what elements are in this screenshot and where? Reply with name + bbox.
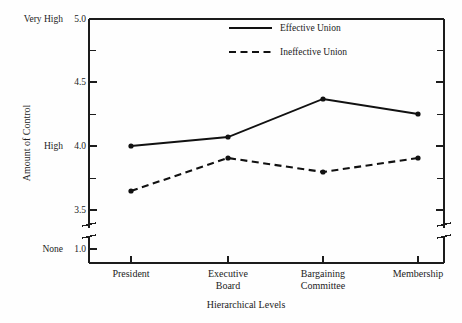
y-axis-ticks-left	[89, 50, 97, 249]
y-anchor-label-none: None	[42, 244, 63, 254]
x-axis-ticks	[131, 256, 418, 263]
data-point	[225, 155, 230, 160]
x-tick-label-president: President	[112, 268, 149, 279]
y-tick-label-5: 5.0	[74, 14, 86, 24]
data-point	[320, 169, 325, 174]
y-tick-label-4: 4.0	[74, 141, 86, 151]
data-point	[225, 134, 230, 139]
y-anchor-label-high: High	[44, 141, 63, 151]
x-tick-label-bargaining-committee-line1: Bargaining	[301, 268, 345, 279]
y-axis-tick-labels: 5.0 4.5 4.0 3.5 1.0	[74, 14, 86, 254]
chart-legend: Effective Union Ineffective Union	[229, 23, 347, 57]
x-axis-title: Hierarchical Levels	[207, 299, 286, 310]
line-chart-canvas: 5.0 4.5 4.0 3.5 1.0 Very High High None …	[0, 0, 462, 323]
y-anchor-label-very-high: Very High	[24, 14, 64, 24]
y-axis-break-icon	[82, 223, 451, 238]
y-axis-ticks-right	[436, 50, 444, 210]
x-tick-label-executive-board-line2: Board	[216, 280, 240, 291]
y-tick-label-3p5: 3.5	[74, 205, 86, 215]
series-effective-union-line	[131, 99, 418, 146]
x-tick-label-bargaining-committee-line2: Committee	[301, 280, 346, 291]
legend-label-effective-union: Effective Union	[280, 23, 341, 33]
x-tick-label-executive-board-line1: Executive	[208, 268, 249, 279]
y-tick-label-1: 1.0	[74, 244, 86, 254]
data-point	[415, 155, 420, 160]
legend-entry-effective-union: Effective Union	[229, 23, 341, 33]
legend-label-ineffective-union: Ineffective Union	[280, 47, 347, 57]
series-ineffective-union	[128, 155, 420, 193]
y-axis-title: Amount of Control	[21, 104, 32, 181]
x-axis-tick-labels: President Executive Board Bargaining Com…	[112, 268, 443, 291]
series-effective-union	[128, 96, 420, 148]
x-tick-label-membership: Membership	[393, 268, 444, 279]
y-tick-label-4p5: 4.5	[74, 77, 86, 87]
series-ineffective-union-line	[131, 158, 418, 191]
data-point	[128, 188, 133, 193]
plot-frame	[89, 19, 444, 263]
data-point	[415, 111, 420, 116]
data-point	[128, 143, 133, 148]
chart-figure: 5.0 4.5 4.0 3.5 1.0 Very High High None …	[0, 0, 462, 323]
legend-entry-ineffective-union: Ineffective Union	[229, 47, 347, 57]
data-point	[320, 96, 325, 101]
